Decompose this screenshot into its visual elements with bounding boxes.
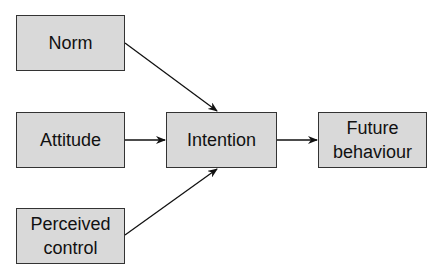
node-future-behaviour: Future behaviour bbox=[318, 112, 427, 168]
node-label-line1: Future bbox=[346, 116, 398, 140]
node-label: Norm bbox=[49, 31, 93, 55]
node-label: Attitude bbox=[40, 128, 101, 152]
node-label: Intention bbox=[187, 128, 256, 152]
node-attitude: Attitude bbox=[16, 112, 125, 168]
node-label-line1: Perceived bbox=[30, 212, 110, 236]
edge-perceived-control-to-intention bbox=[125, 169, 217, 235]
node-perceived-control: Perceived control bbox=[16, 208, 125, 264]
node-label-line2: behaviour bbox=[333, 140, 412, 164]
node-label-line2: control bbox=[43, 236, 97, 260]
node-intention: Intention bbox=[166, 112, 277, 168]
node-norm: Norm bbox=[16, 15, 125, 71]
edge-norm-to-intention bbox=[125, 43, 217, 111]
